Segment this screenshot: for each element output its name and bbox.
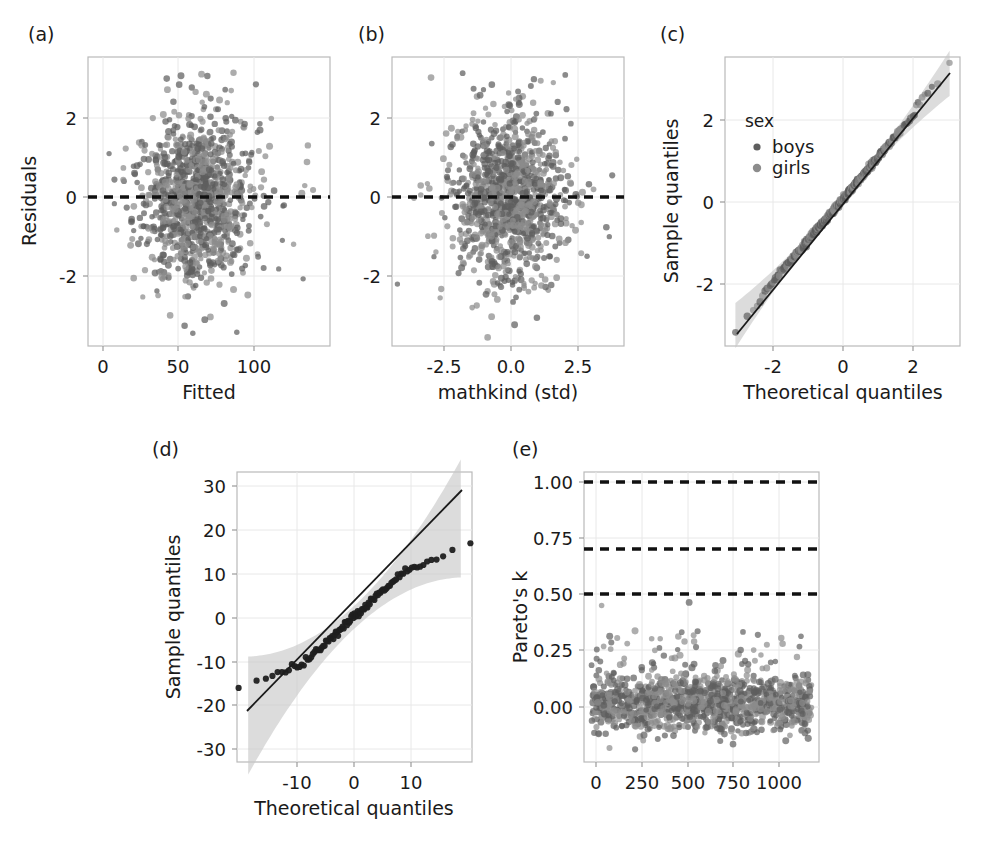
data-point bbox=[482, 165, 488, 171]
data-point bbox=[243, 150, 249, 156]
data-point bbox=[773, 659, 779, 665]
data-point bbox=[541, 204, 547, 210]
data-point bbox=[266, 143, 273, 150]
panel-a-ylabel: Residuals bbox=[18, 156, 40, 246]
data-point bbox=[611, 677, 617, 683]
data-point bbox=[166, 272, 172, 278]
data-point bbox=[648, 682, 654, 688]
data-point bbox=[632, 688, 638, 694]
data-point bbox=[798, 707, 804, 713]
data-point bbox=[255, 130, 261, 136]
panel-d-ytick-6: -30 bbox=[197, 739, 226, 760]
data-point bbox=[531, 187, 536, 192]
data-point bbox=[524, 121, 529, 126]
data-point bbox=[493, 128, 499, 134]
data-point bbox=[467, 540, 473, 546]
data-point bbox=[162, 182, 167, 187]
data-point bbox=[182, 263, 188, 269]
data-point bbox=[738, 698, 744, 704]
data-point bbox=[155, 293, 161, 299]
data-point bbox=[485, 112, 491, 118]
data-point bbox=[483, 221, 488, 226]
data-point bbox=[175, 181, 181, 187]
data-point bbox=[156, 142, 162, 148]
data-point bbox=[507, 239, 514, 246]
data-point bbox=[731, 734, 737, 740]
data-point bbox=[513, 294, 519, 300]
data-point bbox=[483, 106, 488, 111]
panel-e-xtick-1: 250 bbox=[625, 772, 659, 793]
data-point bbox=[261, 203, 268, 210]
data-point bbox=[679, 715, 685, 721]
data-point bbox=[611, 670, 617, 676]
data-point bbox=[144, 241, 150, 247]
data-point bbox=[656, 725, 662, 731]
data-point bbox=[121, 165, 127, 171]
data-point bbox=[524, 189, 531, 196]
data-point bbox=[604, 671, 610, 677]
data-point bbox=[186, 182, 192, 188]
data-point bbox=[521, 140, 526, 145]
data-point bbox=[758, 718, 765, 725]
data-point bbox=[218, 149, 224, 155]
data-point bbox=[700, 699, 706, 705]
data-point bbox=[698, 714, 704, 720]
data-point bbox=[433, 249, 438, 254]
data-point bbox=[691, 632, 697, 638]
panel-e-xtick-4: 1000 bbox=[756, 772, 802, 793]
data-point bbox=[562, 204, 568, 210]
data-point bbox=[175, 253, 181, 259]
data-point bbox=[533, 148, 539, 154]
data-point bbox=[513, 96, 518, 101]
data-point bbox=[258, 184, 264, 190]
data-point bbox=[174, 172, 180, 178]
data-point bbox=[596, 676, 603, 683]
data-point bbox=[196, 157, 203, 164]
data-point bbox=[614, 635, 620, 641]
data-point bbox=[622, 682, 629, 689]
data-point bbox=[805, 699, 811, 705]
data-point bbox=[713, 697, 720, 704]
data-point bbox=[229, 258, 235, 264]
data-point bbox=[792, 673, 798, 679]
data-point bbox=[131, 228, 136, 233]
data-point bbox=[457, 227, 463, 233]
data-point bbox=[478, 186, 485, 193]
data-point bbox=[508, 199, 514, 205]
data-point bbox=[750, 726, 756, 732]
data-point bbox=[449, 547, 455, 553]
data-point bbox=[568, 181, 574, 187]
data-point bbox=[803, 677, 810, 684]
data-point bbox=[460, 70, 466, 76]
data-point bbox=[185, 116, 191, 122]
data-point bbox=[205, 208, 211, 214]
data-point bbox=[204, 236, 209, 241]
data-point bbox=[579, 189, 586, 196]
data-point bbox=[679, 699, 685, 705]
data-point bbox=[131, 170, 138, 177]
data-point bbox=[766, 696, 772, 702]
data-point bbox=[551, 80, 556, 85]
data-point bbox=[246, 159, 252, 165]
data-point bbox=[256, 148, 262, 154]
data-point bbox=[546, 177, 551, 182]
data-point bbox=[174, 244, 179, 249]
data-point bbox=[224, 210, 230, 216]
data-point bbox=[737, 647, 743, 653]
panel-a-ytick-2: -2 bbox=[59, 266, 77, 287]
data-point bbox=[201, 152, 207, 158]
data-point bbox=[547, 254, 553, 260]
data-point bbox=[723, 703, 730, 710]
data-point bbox=[221, 163, 228, 170]
data-point bbox=[158, 232, 163, 237]
data-point bbox=[178, 239, 185, 246]
panel-d-xtick-0: -10 bbox=[282, 772, 311, 793]
data-point bbox=[610, 708, 617, 715]
data-point bbox=[527, 254, 532, 259]
data-point bbox=[633, 724, 639, 730]
data-point bbox=[799, 700, 805, 706]
data-point bbox=[163, 217, 170, 224]
data-point bbox=[758, 652, 764, 658]
data-point bbox=[475, 168, 482, 175]
data-point bbox=[440, 553, 446, 559]
